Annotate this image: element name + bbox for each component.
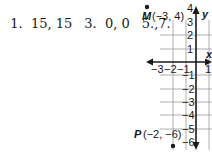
point-m: M (−3, 4) [142,5,184,22]
svg-text:−3: −3 [182,96,195,108]
svg-text:2: 2 [187,29,193,41]
svg-text:1: 1 [205,63,211,75]
svg-text:−5: −5 [182,123,195,135]
svg-text:(−3, 4): (−3, 4) [152,10,184,22]
point-p-marker [171,144,175,148]
svg-text:−4: −4 [182,109,195,121]
svg-text:(−2, −6): (−2, −6) [143,128,182,140]
y-tick-labels: 4 3 2 1 −1 −2 −3 −4 −5 −6 [182,2,195,148]
svg-text:3: 3 [187,16,193,28]
svg-text:−2: −2 [182,83,195,95]
svg-text:P: P [134,128,142,140]
coordinate-graph: 4 3 2 1 −1 −2 −3 −4 −5 −6 −3 −2 −1 1 y x… [0,0,212,152]
svg-text:−2: −2 [164,63,177,75]
svg-text:1: 1 [187,43,193,55]
x-tick-labels: −3 −2 −1 1 [151,63,211,75]
point-p: P (−2, −6) [134,128,182,148]
svg-text:−1: −1 [177,63,190,75]
svg-text:M: M [142,10,152,22]
svg-text:4: 4 [187,2,193,14]
y-axis-label: y [201,8,209,20]
svg-text:−3: −3 [151,63,164,75]
x-axis-label: x [205,48,212,60]
point-m-marker [145,5,149,9]
svg-text:−6: −6 [182,136,195,148]
